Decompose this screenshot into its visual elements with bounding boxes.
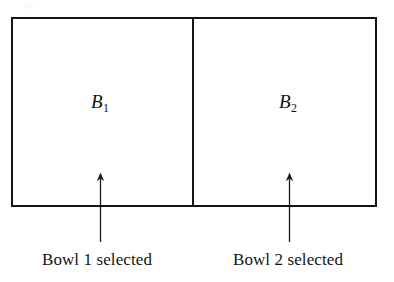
region-label-b2-base: B: [279, 91, 291, 112]
caption-bowl-2: Bowl 2 selected: [195, 250, 381, 270]
bowl-selection-diagram: B1 B2 Bowl 1 selected Bowl 2 selected: [0, 0, 394, 282]
region-label-b2-subscript: 2: [291, 101, 297, 115]
caption-bowl-1: Bowl 1 selected: [4, 250, 190, 270]
region-label-b2: B2: [243, 92, 333, 114]
up-arrow-icon-bowl-1: [94, 172, 107, 242]
partition-divider: [192, 17, 194, 207]
up-arrow-icon-bowl-2: [283, 172, 296, 242]
region-label-b1-subscript: 1: [103, 101, 109, 115]
region-label-b1-base: B: [91, 91, 103, 112]
region-label-b1: B1: [55, 92, 145, 114]
scan-artifact: [24, 2, 33, 9]
